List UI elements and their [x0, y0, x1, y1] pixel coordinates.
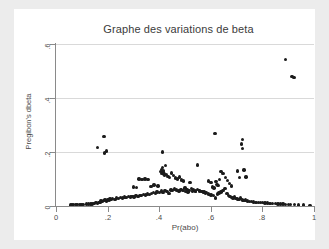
- x-tick-mark: [56, 207, 57, 212]
- data-point: [223, 187, 226, 190]
- plot-area: [56, 44, 314, 206]
- data-point: [168, 176, 171, 179]
- data-point: [284, 58, 287, 61]
- x-tick-label: .6: [201, 213, 221, 222]
- data-point: [96, 146, 99, 149]
- x-tick-label: .8: [252, 213, 272, 222]
- y-tick-label: 0: [45, 206, 52, 210]
- y-tick-label-wrap: .2: [36, 147, 48, 157]
- data-point: [146, 178, 149, 181]
- data-point: [182, 179, 185, 182]
- data-point: [161, 150, 164, 153]
- y-tick-label-wrap: 0: [36, 201, 48, 211]
- y-tick-label-wrap: .4: [36, 93, 48, 103]
- y-axis-label: Pregibon's dbeta: [24, 77, 33, 167]
- y-tick-label: .4: [45, 98, 52, 104]
- y-tick-label: .2: [45, 152, 52, 158]
- y-axis-line: [55, 43, 56, 207]
- data-point: [209, 181, 212, 184]
- x-tick-label: 1: [304, 213, 324, 222]
- data-point: [105, 149, 108, 152]
- data-point: [164, 164, 167, 167]
- y-tick-label: .6: [45, 44, 52, 50]
- data-point: [218, 178, 221, 181]
- data-point: [240, 142, 243, 145]
- data-point: [156, 184, 159, 187]
- data-point: [216, 184, 219, 187]
- gridline-y: [56, 98, 314, 99]
- x-tick-mark: [211, 207, 212, 212]
- x-tick-label: .2: [98, 213, 118, 222]
- x-tick-mark: [262, 207, 263, 212]
- x-tick-label: .4: [149, 213, 169, 222]
- data-point: [135, 186, 138, 189]
- data-point: [221, 172, 224, 175]
- data-point: [204, 191, 207, 194]
- data-point: [236, 169, 239, 172]
- data-point: [152, 183, 155, 186]
- chart-title: Graphe des variations de beta: [28, 23, 329, 35]
- x-tick-mark: [314, 207, 315, 212]
- x-tick-mark: [159, 207, 160, 212]
- data-point: [242, 168, 245, 171]
- data-point: [244, 175, 247, 178]
- data-point: [230, 184, 233, 187]
- data-point: [241, 138, 244, 141]
- data-point: [241, 147, 244, 150]
- figure-canvas: Graphe des variations de beta 0.2.4.6 0.…: [0, 0, 329, 249]
- data-point: [212, 186, 215, 189]
- data-point: [186, 190, 189, 193]
- gridline-y: [56, 152, 314, 153]
- gridline-y: [56, 44, 314, 45]
- plot-canvas: Graphe des variations de beta 0.2.4.6 0.…: [14, 9, 315, 240]
- x-tick-mark: [108, 207, 109, 212]
- data-point: [292, 76, 295, 79]
- x-axis-label: Pr(abo): [56, 223, 314, 232]
- data-point: [238, 176, 241, 179]
- x-tick-label: 0: [46, 213, 66, 222]
- data-point: [196, 163, 199, 166]
- x-axis-line: [55, 206, 315, 207]
- y-tick-label-wrap: .6: [36, 39, 48, 49]
- data-point: [213, 132, 216, 135]
- data-point: [194, 190, 197, 193]
- data-point: [102, 135, 105, 138]
- data-point: [167, 192, 170, 195]
- data-point: [188, 181, 191, 184]
- data-point: [214, 196, 217, 199]
